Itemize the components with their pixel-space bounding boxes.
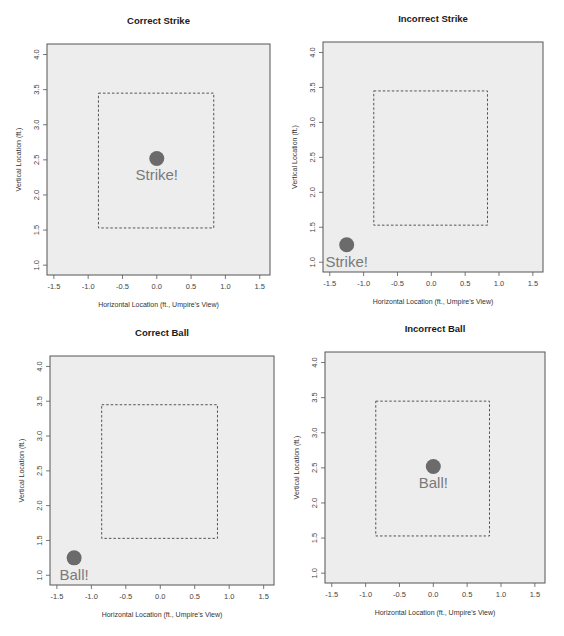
- y-tick-label: 2.5: [310, 463, 319, 473]
- panel-correct-strike: Correct Strike-1.5-1.0-0.50.00.51.01.5Ho…: [47, 44, 270, 275]
- panel-title: Incorrect Strike: [398, 13, 468, 24]
- x-tick-label: -1.0: [357, 279, 370, 288]
- y-tick-label: 1.5: [35, 535, 44, 545]
- x-tick-label: -1.5: [325, 590, 338, 599]
- x-tick-label: 1.0: [224, 592, 234, 601]
- x-tick-label: 0.5: [190, 592, 200, 601]
- y-tick-label: 1.5: [310, 533, 319, 543]
- umpire-call-label: Strike!: [136, 166, 179, 183]
- panel-title: Correct Ball: [135, 327, 189, 338]
- y-tick-label: 1.0: [310, 568, 319, 578]
- y-tick-label: 4.0: [35, 361, 44, 371]
- y-tick-label: 2.0: [32, 190, 41, 200]
- x-tick-label: -0.5: [119, 592, 132, 601]
- x-axis: -1.5-1.0-0.50.00.51.01.5Horizontal Locat…: [50, 585, 268, 619]
- x-tick-label: -0.5: [393, 590, 406, 599]
- x-tick-label: -1.0: [359, 590, 372, 599]
- umpire-call-label: Ball!: [419, 474, 448, 491]
- umpire-call-label: Ball!: [60, 566, 89, 583]
- x-tick-label: 1.0: [220, 282, 230, 291]
- y-axis: 1.01.52.02.53.03.54.0Vertical Location (…: [293, 357, 325, 578]
- y-tick-label: 2.5: [35, 466, 44, 476]
- pitch-location-marker: [426, 459, 441, 474]
- x-tick-label: 0.5: [462, 590, 472, 599]
- x-axis-title: Horizontal Location (ft., Umpire's View): [373, 298, 494, 306]
- x-tick-label: 1.5: [528, 279, 538, 288]
- x-tick-label: -1.5: [47, 282, 60, 291]
- pitch-location-marker: [149, 151, 164, 166]
- x-tick-label: -0.5: [116, 282, 129, 291]
- panel-incorrect-ball: Incorrect Ball-1.5-1.0-0.50.00.51.01.5Ho…: [325, 352, 545, 583]
- y-tick-label: 3.5: [32, 84, 41, 94]
- y-tick-label: 2.5: [308, 152, 317, 162]
- umpire-call-label: Strike!: [325, 253, 368, 270]
- y-tick-label: 2.5: [32, 155, 41, 165]
- panel-correct-ball: Correct Ball-1.5-1.0-0.50.00.51.01.5Hori…: [50, 356, 274, 585]
- y-tick-label: 1.5: [308, 222, 317, 232]
- plot-svg: Correct Ball-1.5-1.0-0.50.00.51.01.5Hori…: [50, 356, 274, 585]
- x-tick-label: -1.5: [323, 279, 336, 288]
- x-axis-title: Horizontal Location (ft., Umpire's View): [102, 611, 223, 619]
- x-tick-label: 0.0: [155, 592, 165, 601]
- x-axis-title: Horizontal Location (ft., Umpire's View): [98, 301, 219, 309]
- y-tick-label: 1.0: [32, 260, 41, 270]
- y-tick-label: 1.0: [308, 257, 317, 267]
- x-tick-label: -1.5: [50, 592, 63, 601]
- plot-svg: Correct Strike-1.5-1.0-0.50.00.51.01.5Ho…: [47, 44, 270, 275]
- y-axis-title: Vertical Location (ft.): [15, 128, 23, 192]
- x-tick-label: -1.0: [82, 282, 95, 291]
- y-tick-label: 3.0: [310, 428, 319, 438]
- y-tick-label: 3.5: [308, 82, 317, 92]
- x-tick-label: 1.5: [254, 282, 264, 291]
- y-axis: 1.01.52.02.53.03.54.0Vertical Location (…: [15, 49, 47, 270]
- x-tick-label: 0.0: [428, 590, 438, 599]
- pitch-location-marker: [67, 550, 82, 565]
- panel-incorrect-strike: Incorrect Strike-1.5-1.0-0.50.00.51.01.5…: [323, 42, 543, 272]
- x-tick-label: 0.5: [186, 282, 196, 291]
- x-tick-label: -0.5: [391, 279, 404, 288]
- x-tick-label: 1.0: [496, 590, 506, 599]
- x-tick-label: 0.5: [460, 279, 470, 288]
- x-tick-label: 0.0: [152, 282, 162, 291]
- y-tick-label: 4.0: [32, 49, 41, 59]
- y-axis-title: Vertical Location (ft.): [291, 125, 299, 189]
- y-tick-label: 3.5: [310, 392, 319, 402]
- y-axis: 1.01.52.02.53.03.54.0Vertical Location (…: [291, 47, 323, 267]
- x-tick-label: 1.0: [494, 279, 504, 288]
- y-tick-label: 3.5: [35, 396, 44, 406]
- plot-area: [50, 356, 274, 585]
- x-tick-label: 1.5: [530, 590, 540, 599]
- pitch-location-marker: [339, 237, 354, 252]
- panel-title: Incorrect Ball: [405, 323, 466, 334]
- x-tick-label: 0.0: [426, 279, 436, 288]
- y-tick-label: 1.0: [35, 570, 44, 580]
- x-axis: -1.5-1.0-0.50.00.51.01.5Horizontal Locat…: [47, 275, 265, 309]
- x-tick-label: 1.5: [258, 592, 268, 601]
- panel-title: Correct Strike: [127, 15, 190, 26]
- plot-svg: Incorrect Strike-1.5-1.0-0.50.00.51.01.5…: [323, 42, 543, 272]
- y-axis-title: Vertical Location (ft.): [18, 439, 26, 503]
- y-tick-label: 2.0: [310, 498, 319, 508]
- y-tick-label: 1.5: [32, 225, 41, 235]
- y-tick-label: 3.0: [35, 431, 44, 441]
- y-tick-label: 3.0: [308, 117, 317, 127]
- y-tick-label: 4.0: [308, 47, 317, 57]
- y-tick-label: 4.0: [310, 357, 319, 367]
- y-tick-label: 3.0: [32, 120, 41, 130]
- y-tick-label: 2.0: [35, 500, 44, 510]
- x-axis-title: Horizontal Location (ft., Umpire's View): [375, 609, 496, 617]
- plot-area: [323, 42, 543, 272]
- y-axis: 1.01.52.02.53.03.54.0Vertical Location (…: [18, 361, 50, 580]
- plot-svg: Incorrect Ball-1.5-1.0-0.50.00.51.01.5Ho…: [325, 352, 545, 583]
- y-tick-label: 2.0: [308, 187, 317, 197]
- x-tick-label: -1.0: [85, 592, 98, 601]
- y-axis-title: Vertical Location (ft.): [293, 436, 301, 500]
- x-axis: -1.5-1.0-0.50.00.51.01.5Horizontal Locat…: [323, 272, 538, 306]
- x-axis: -1.5-1.0-0.50.00.51.01.5Horizontal Locat…: [325, 583, 540, 617]
